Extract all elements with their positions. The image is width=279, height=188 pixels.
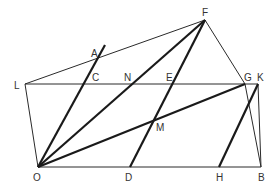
segment-FG xyxy=(205,20,245,84)
label-B: B xyxy=(258,172,265,183)
segment-HK xyxy=(219,84,258,167)
label-K: K xyxy=(257,72,264,83)
segment-OG xyxy=(38,84,245,167)
label-A: A xyxy=(91,48,98,59)
geometry-diagram: F A L C N E G K M O D H B xyxy=(0,0,279,188)
label-G: G xyxy=(244,72,252,83)
label-F: F xyxy=(202,7,208,18)
segment-LO xyxy=(25,84,38,167)
segment-OF xyxy=(38,20,205,167)
label-M: M xyxy=(156,122,164,133)
label-O: O xyxy=(33,172,41,183)
label-H: H xyxy=(216,172,223,183)
segment-DF xyxy=(130,20,205,167)
segment-OA xyxy=(38,45,105,167)
label-N: N xyxy=(124,72,131,83)
label-L: L xyxy=(14,80,20,91)
label-C: C xyxy=(92,72,99,83)
label-E: E xyxy=(166,72,173,83)
label-D: D xyxy=(125,172,132,183)
